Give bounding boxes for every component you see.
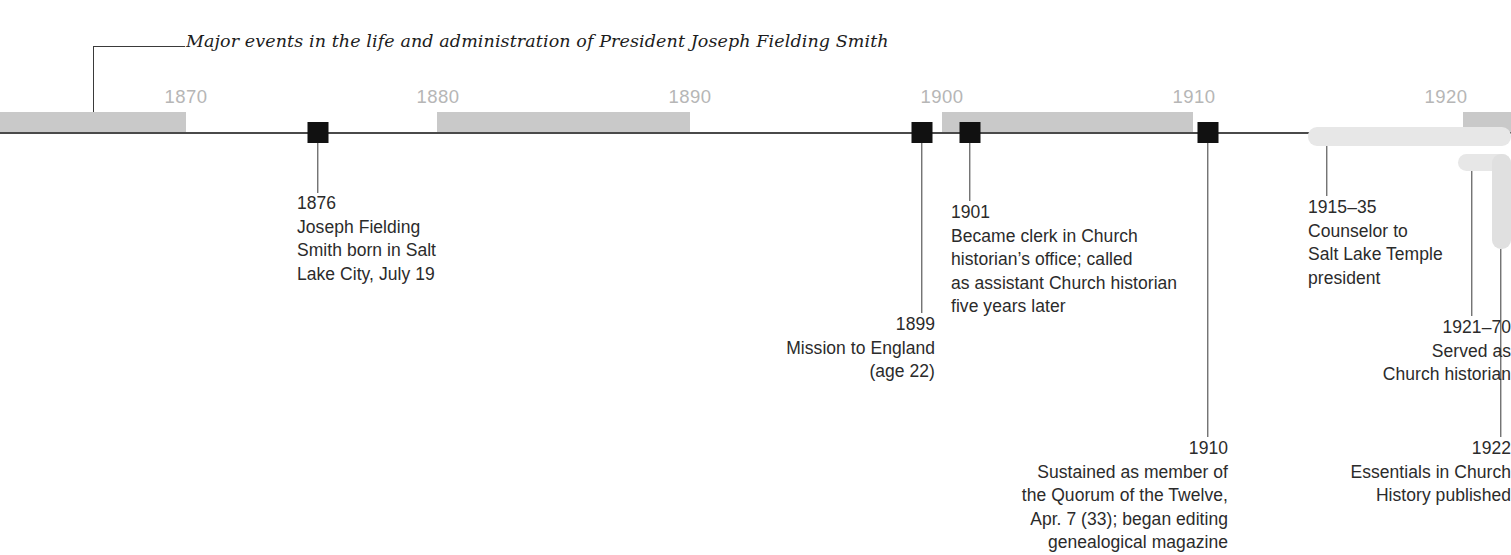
event-marker-1910: [1198, 122, 1219, 143]
figure-title: Major events in the life and administrat…: [186, 31, 889, 51]
axis-baseline: [0, 132, 1511, 134]
event-year-1876: 1876: [297, 192, 527, 216]
event-label-1901: 1901 Became clerk in Churchhistorian’s o…: [951, 201, 1221, 319]
event-marker-1899: [912, 122, 933, 143]
year-tick-1910: 1910: [1173, 86, 1216, 108]
event-marker-1876: [308, 122, 329, 143]
year-tick-1890: 1890: [669, 86, 712, 108]
axis-decade-segment-1890s: [690, 112, 942, 132]
span-bar-1915-35: [1308, 127, 1511, 146]
event-label-1921-70: 1921–70 Served asChurch historian: [1290, 316, 1511, 387]
event-label-1910: 1910 Sustained as member ofthe Quorum of…: [980, 437, 1228, 555]
event-description-1921-70: Served asChurch historian: [1290, 340, 1511, 387]
year-tick-1880: 1880: [417, 86, 460, 108]
event-description-1899: Mission to England(age 22): [700, 337, 935, 384]
year-tick-1920: 1920: [1425, 86, 1468, 108]
year-tick-1870: 1870: [165, 86, 208, 108]
event-year-1910: 1910: [980, 437, 1228, 461]
event-year-1915-35: 1915–35: [1308, 196, 1508, 220]
event-year-1899: 1899: [700, 313, 935, 337]
event-stem-1899: [921, 143, 922, 313]
timeline-figure: Major events in the life and administrat…: [0, 0, 1511, 555]
event-description-1922: Essentials in ChurchHistory published: [1290, 461, 1511, 508]
event-label-1922: 1922 Essentials in ChurchHistory publish…: [1290, 437, 1511, 508]
event-description-1876: Joseph FieldingSmith born in SaltLake Ci…: [297, 216, 527, 287]
event-year-1921-70: 1921–70: [1290, 316, 1511, 340]
event-description-1910: Sustained as member ofthe Quorum of the …: [980, 461, 1228, 555]
event-year-1922: 1922: [1290, 437, 1511, 461]
title-leader-line-horizontal: [93, 46, 185, 47]
event-year-1901: 1901: [951, 201, 1221, 225]
event-label-1899: 1899 Mission to England(age 22): [700, 313, 935, 384]
event-marker-1901: [960, 122, 981, 143]
event-description-1915-35: Counselor toSalt Lake Templepresident: [1308, 220, 1508, 291]
year-tick-1900: 1900: [921, 86, 964, 108]
event-label-1876: 1876 Joseph FieldingSmith born in SaltLa…: [297, 192, 527, 286]
event-description-1901: Became clerk in Churchhistorian’s office…: [951, 225, 1221, 319]
event-label-1915-35: 1915–35 Counselor toSalt Lake Templepres…: [1308, 196, 1508, 290]
event-stem-1915-35: [1326, 146, 1327, 196]
event-stem-1876: [317, 143, 318, 193]
event-stem-1901: [969, 143, 970, 201]
